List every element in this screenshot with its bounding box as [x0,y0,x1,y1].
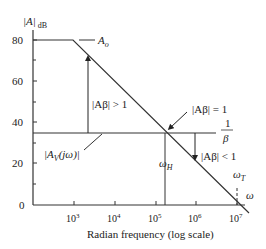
x-axis-label: Radian frequency (log scale) [87,228,214,241]
y-tick-60: 60 [12,75,24,87]
ao-label: Ao [97,34,109,49]
x-tick-1e4: 104 [107,212,121,224]
omega-h-label: ωH [159,157,174,172]
y-tick-0: 0 [19,199,25,211]
loop-gain-equal-label: |Aβ| = 1 [192,103,227,115]
svg-text:1: 1 [225,117,231,129]
loop-gain-less-label: |Aβ| < 1 [201,150,236,162]
bode-diagram: 80 60 40 20 0 |A|dB 103 104 105 106 107 … [0,0,266,249]
x-tick-1e3: 103 [66,212,80,224]
svg-text:β: β [222,132,229,144]
omega-t-label: ωT [233,168,246,183]
y-axis-label: |A|dB [23,15,47,30]
y-tick-80: 80 [12,34,24,46]
y-tick-20: 20 [12,157,24,169]
av-leader [84,134,102,150]
open-loop-gain-curve [33,40,249,213]
x-tick-1e5: 105 [148,212,162,224]
unity-loop-gain-pointer [170,112,187,128]
omega-axis-label: ω [246,189,254,201]
x-tick-1e7: 107 [229,212,243,224]
x-tick-1e6: 106 [188,212,202,224]
inverse-beta-label: 1 β [221,117,233,144]
y-tick-40: 40 [12,116,24,128]
loop-gain-greater-label: |Aβ| > 1 [92,98,127,110]
av-label: |AV(jω)| [44,148,80,163]
